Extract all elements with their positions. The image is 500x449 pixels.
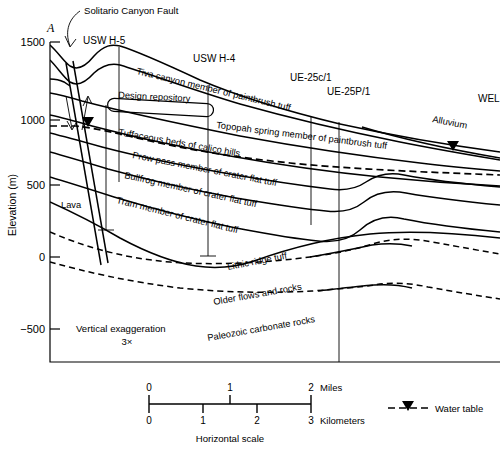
scale-miles-tick-2: 2 xyxy=(308,382,314,393)
y-axis-ticks xyxy=(50,42,60,329)
scale-unit-kilometers: Kilometers xyxy=(320,415,365,426)
scale-km-tick-2: 2 xyxy=(254,415,260,426)
unit-label-lava: Lava xyxy=(61,200,82,210)
well-label-usw-h5: USW H-5 xyxy=(83,35,126,46)
vertical-exaggeration-value: 3× xyxy=(122,336,133,347)
y-tick-label-0: 0 xyxy=(39,251,45,263)
fault-leader-line xyxy=(65,11,80,47)
vertical-exaggeration-label: Vertical exaggeration xyxy=(76,323,166,334)
paleozoic-top-crest-line xyxy=(318,285,412,291)
y-axis-title: Elevation (m) xyxy=(6,174,18,236)
unit-label-older-flows: Older flows and rocks xyxy=(213,282,303,307)
well-label-ue25p1: UE-25P/1 xyxy=(327,86,371,97)
scale-km-tick-3: 3 xyxy=(308,415,314,426)
geologic-cross-section-figure: A Elevation (m) 1500 1000 500 0 −500 Sol… xyxy=(0,0,500,449)
scale-km-tick-0: 0 xyxy=(146,415,152,426)
scale-km-tick-1: 1 xyxy=(200,415,206,426)
well-label-ue25c1: UE-25c/1 xyxy=(290,72,332,83)
solitario-canyon-fault-label: Solitario Canyon Fault xyxy=(84,5,179,16)
horizontal-scale-title: Horizontal scale xyxy=(196,433,264,444)
y-tick-label-1000: 1000 xyxy=(21,114,45,126)
scale-unit-miles: Miles xyxy=(320,382,342,393)
scale-bar-graphic xyxy=(149,395,311,413)
legend-water-table-swatch xyxy=(388,401,428,411)
scale-miles-tick-0: 0 xyxy=(146,382,152,393)
unit-label-paleozoic-carbonate: Paleozoic carbonate rocks xyxy=(207,314,316,343)
design-repository-label: Design repository xyxy=(118,90,191,104)
unit-label-lithic-ridge-tuff: Lithic ridge tuff xyxy=(226,251,288,272)
unit-label-tiva-canyon: Tiva canyon member of paintbrush tuff xyxy=(136,66,292,113)
cross-section-svg: A Elevation (m) 1500 1000 500 0 −500 Sol… xyxy=(0,0,500,449)
scale-miles-tick-1: 1 xyxy=(227,382,233,393)
well-label-usw-h4: USW H-4 xyxy=(193,53,236,64)
y-tick-label-500: 500 xyxy=(27,179,45,191)
y-tick-label-minus500: −500 xyxy=(20,323,45,335)
y-tick-label-1500: 1500 xyxy=(21,36,45,48)
well-label-wel: WEL xyxy=(478,93,500,104)
lithic-ridge-crest-line xyxy=(310,244,412,257)
legend-water-table-label: Water table xyxy=(435,403,483,414)
section-letter: A xyxy=(46,21,55,35)
unit-label-alluvium: Alluvium xyxy=(432,114,469,131)
